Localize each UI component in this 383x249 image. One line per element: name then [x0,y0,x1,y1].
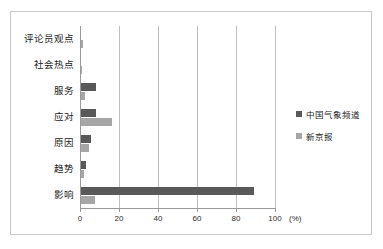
category-label: 应对 [0,104,74,130]
category-label: 社会热点 [0,52,74,78]
legend-entry[interactable]: 新京报 [296,130,360,142]
x-tick-20 [119,208,120,212]
x-tick-60 [197,208,198,212]
x-tick-0 [80,208,81,212]
bar-1 [81,170,84,178]
category-label: 趋势 [0,156,74,182]
category-label: 服务 [0,78,74,104]
bar-0 [81,161,86,169]
bar-1 [81,66,82,74]
category-label: 评论员观点 [0,26,74,52]
x-tick-label-20: 20 [104,214,134,223]
bar-0 [81,83,96,91]
x-tick-label-60: 60 [182,214,212,223]
x-tick-40 [158,208,159,212]
x-axis-unit-label: (%) [289,214,301,223]
legend-swatch-icon [296,133,302,139]
bar-row: 评论员观点 [11,26,371,52]
bar-1 [81,40,83,48]
x-tick-label-80: 80 [221,214,251,223]
bar-1 [81,92,85,100]
x-tick-label-100: 100 [260,214,290,223]
legend-label: 新京报 [306,130,333,142]
category-label: 影响 [0,182,74,208]
bar-row: 服务 [11,78,371,104]
legend-label: 中国气象频道 [306,108,360,120]
legend-swatch-icon [296,111,302,117]
bar-row: 社会热点 [11,52,371,78]
bar-1 [81,196,95,204]
category-label: 原因 [0,130,74,156]
x-axis-line [80,208,276,209]
legend-entry[interactable]: 中国气象频道 [296,108,360,120]
bar-0 [81,187,254,195]
bar-1 [81,118,112,126]
bar-1 [81,144,89,152]
x-tick-80 [236,208,237,212]
x-tick-label-40: 40 [143,214,173,223]
bar-0 [81,135,91,143]
chart-frame: 020406080100 (%) 评论员观点社会热点服务应对原因趋势影响 中国气… [10,11,372,235]
bar-row: 趋势 [11,156,371,182]
chart-legend: 中国气象频道新京报 [296,108,360,152]
x-tick-100 [275,208,276,212]
bar-0 [81,109,96,117]
x-tick-label-0: 0 [65,214,95,223]
bar-row: 影响 [11,182,371,208]
